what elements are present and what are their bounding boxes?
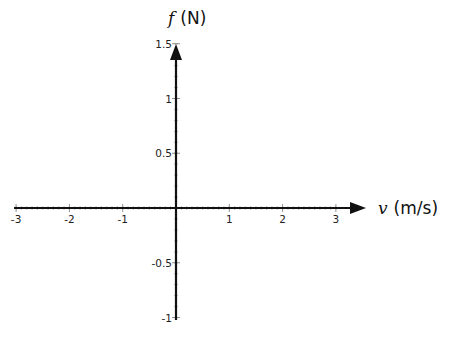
x-axis-arrow-icon [350,202,366,214]
x-axis-label: v(m/s) [378,198,438,218]
y-tick-labels: -1-0.50.511.5 [152,38,173,324]
x-tick-label: 2 [279,213,286,225]
x-tick-label: -2 [64,213,74,225]
chart-canvas: -3-2-1123 -1-0.50.511.5 v(m/s) f(N) [0,0,451,339]
y-tick-label: 0.5 [155,147,172,159]
y-tick-label: -0.5 [152,257,173,269]
x-tick-label: 3 [333,213,340,225]
x-tick-label: 1 [226,213,233,225]
x-tick-label: -1 [117,213,127,225]
y-tick-label: 1 [165,93,172,105]
y-tick-label: 1.5 [155,38,172,50]
y-tick-label: -1 [162,312,172,324]
y-axis-label: f(N) [166,8,206,28]
x-tick-label: -3 [11,213,21,225]
